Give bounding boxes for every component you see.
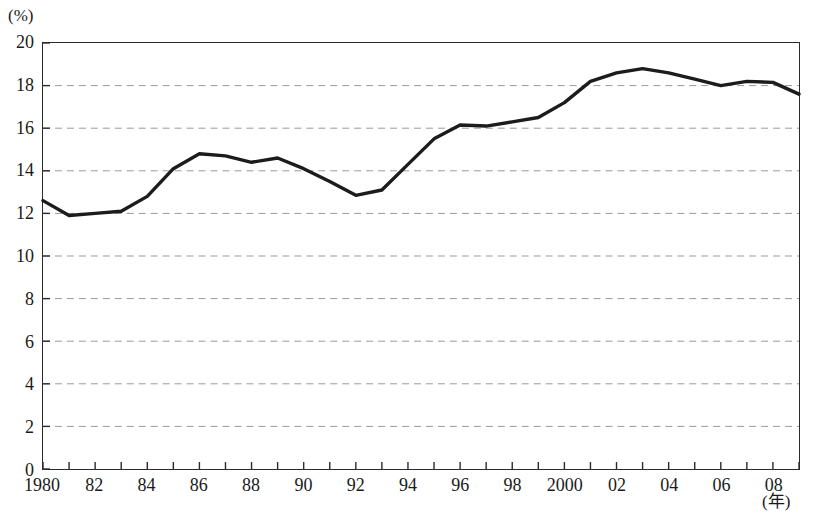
y-tick-label: 4 <box>0 375 34 393</box>
x-tick-label: 84 <box>138 476 156 494</box>
x-tick-label: 04 <box>660 476 678 494</box>
x-tick-label: 96 <box>451 476 469 494</box>
x-axis-unit-label: (年) <box>762 492 790 511</box>
y-tick-label: 2 <box>0 418 34 436</box>
x-tick-label: 90 <box>294 476 312 494</box>
x-tick-label: 98 <box>503 476 521 494</box>
x-tick-label: 82 <box>85 476 103 494</box>
x-tick-label: 88 <box>242 476 260 494</box>
y-tick-label: 14 <box>0 161 34 179</box>
y-tick-label: 20 <box>0 33 34 51</box>
x-tick-label: 06 <box>713 476 731 494</box>
y-tick-label: 0 <box>0 461 34 479</box>
x-tick-label: 02 <box>608 476 626 494</box>
y-tick-label: 12 <box>0 204 34 222</box>
plot-area <box>42 42 800 470</box>
y-tick-label: 10 <box>0 247 34 265</box>
x-tick-label: 92 <box>347 476 365 494</box>
y-tick-label: 6 <box>0 333 34 351</box>
y-tick-label: 8 <box>0 290 34 308</box>
x-tick-label: 2000 <box>547 476 583 494</box>
chart-page: (%) 02468101214161820 198082848688909294… <box>0 0 813 527</box>
y-tick-label: 16 <box>0 119 34 137</box>
x-tick-label: 1980 <box>24 476 60 494</box>
data-series-line <box>43 43 799 469</box>
x-tick-label: 86 <box>190 476 208 494</box>
y-axis-unit-label: (%) <box>8 6 33 25</box>
y-tick-label: 18 <box>0 76 34 94</box>
x-tick-label: 94 <box>399 476 417 494</box>
